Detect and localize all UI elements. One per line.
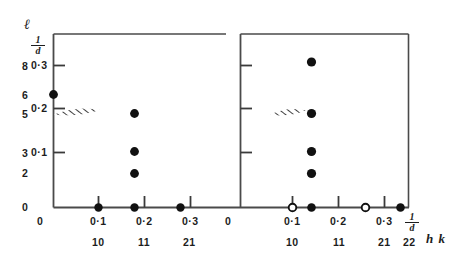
right-hk-10: 10 [286,236,298,248]
marker-filled [49,90,58,99]
right-x-tick-0.3: 0·3 [376,215,392,227]
y-axis-label: ℓ [24,17,31,33]
left-x-tick-0.2: 0·2 [136,215,152,227]
marker-filled [176,203,184,211]
marker-filled [396,203,405,212]
marker-filled [307,147,316,156]
marker-filled [130,147,139,156]
right-hk-11: 11 [333,236,345,248]
right-hk-21: 21 [378,236,390,248]
y-tick-l-8: 8 [22,60,28,72]
left-hatched-band [52,103,104,121]
y-tick-l-0: 0 [22,201,28,213]
marker-filled [94,203,102,211]
marker-filled [130,109,139,118]
y-tick-recip-0.1: 0·1 [31,146,47,158]
left-x-tick-0.1: 0·1 [90,215,106,227]
y-tick-recip-0.2: 0·2 [31,102,47,114]
x-frac-denominator: d [405,223,419,233]
marker-filled [130,169,139,178]
x-axis-reciprocal-label: 1 d [405,212,419,233]
y-tick-l-5: 5 [22,108,28,120]
left-hk-10: 10 [92,236,104,248]
left-hk-21: 21 [183,236,195,248]
figure-canvas: ℓ 1 d 8 6 5 3 2 0 0·3 0·2 0·1 0 0·1 0·2 … [0,0,459,258]
right-hk-22: 22 [403,236,415,248]
y-tick-l-6: 6 [22,89,28,101]
right-x-ticks [293,196,385,208]
y-tick-recip-0.3: 0·3 [31,59,47,71]
left-y-ticks [54,66,66,153]
right-y-ticks [241,66,253,153]
marker-filled [307,109,316,118]
marker-filled [307,57,316,66]
y-tick-recip-0: 0 [37,215,43,227]
right-x-tick-0.2: 0·2 [330,215,346,227]
right-x-tick-0.1: 0·1 [284,215,300,227]
marker-filled [307,203,316,212]
hk-axis-label: h k [426,231,446,247]
y-frac-denominator: d [31,46,45,56]
left-hk-11: 11 [138,236,150,248]
left-panel-frame [54,34,233,208]
left-panel-markers [49,90,185,212]
marker-filled [130,203,138,211]
marker-filled [307,169,316,178]
right-panel-markers [289,57,405,211]
right-x-tick-0: 0 [225,215,231,227]
right-hatched-band [268,103,310,121]
y-tick-l-2: 2 [22,167,28,179]
marker-open [289,204,297,212]
left-x-tick-0.3: 0·3 [182,215,198,227]
right-panel-frame [232,34,409,208]
y-axis-reciprocal-label: 1 d [31,35,45,56]
y-tick-l-3: 3 [22,147,28,159]
marker-open [362,204,370,212]
